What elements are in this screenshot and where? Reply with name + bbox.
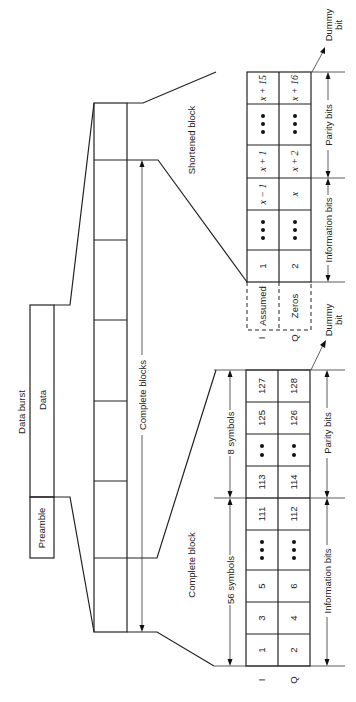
cell-q-112: 112 xyxy=(288,506,299,521)
cell-q-126: 126 xyxy=(288,410,299,426)
cell-q-6: 6 xyxy=(288,583,299,588)
cell-q-2: 2 xyxy=(288,647,299,652)
cell-i-x-minus-1: x − 1 xyxy=(257,183,268,205)
row-label-i: I xyxy=(256,679,267,682)
cell-i-111: 111 xyxy=(256,507,267,521)
dummy-bit-label-mid-2: bit xyxy=(333,315,344,325)
ellipsis-icon xyxy=(293,114,297,134)
parity-symbols-label: 8 symbols xyxy=(225,411,236,454)
cell-q-x-plus-2: x + 2 xyxy=(289,150,300,172)
cell-i-113: 113 xyxy=(256,474,267,489)
data-burst-title: Data burst xyxy=(16,390,27,434)
ellipsis-icon xyxy=(292,540,296,560)
row-label-q: Q xyxy=(288,676,299,683)
complete-blocks-label: Complete blocks xyxy=(137,360,148,430)
cell-i-1: 1 xyxy=(257,263,268,268)
cell-q-x-plus-16: x + 16 xyxy=(289,75,300,102)
complete-block-title: Complete block xyxy=(186,532,197,598)
cell-i-x-plus-1: x + 1 xyxy=(257,150,268,172)
cell-q-128: 128 xyxy=(288,378,299,394)
ellipsis-icon xyxy=(261,114,265,134)
ellipsis-icon xyxy=(292,444,296,457)
cell-i-x-plus-15: x + 15 xyxy=(257,75,268,102)
cell-i-125: 125 xyxy=(256,410,267,426)
data-burst-structure-diagram: Data burst Data Preamble Complete blocks… xyxy=(0,0,356,702)
cell-i-1: 1 xyxy=(256,647,267,652)
cell-i-3: 3 xyxy=(256,615,267,620)
ellipsis-icon xyxy=(293,220,297,240)
info-symbols-label: 56 symbols xyxy=(225,556,236,604)
cell-q-114: 114 xyxy=(288,474,299,489)
dummy-bit-label-top-2: bit xyxy=(333,20,344,30)
complete-parity-bits-label: Parity bits xyxy=(322,412,333,454)
shortened-block: Shortened block Assumed Zeros I Q 1 x − … xyxy=(186,8,345,341)
blocks-column: Complete blocks xyxy=(94,103,149,632)
data-label: Data xyxy=(37,389,48,410)
shortened-block-title: Shortened block xyxy=(186,105,197,174)
assumed-label: Assumed xyxy=(257,286,268,326)
row-label-i: I xyxy=(256,337,267,340)
zeros-label: Zeros xyxy=(289,294,300,319)
shortened-parity-bits-label: Parity bits xyxy=(323,104,334,146)
ellipsis-icon xyxy=(260,444,264,457)
cell-i-5: 5 xyxy=(256,583,267,588)
complete-information-bits-label: Information bits xyxy=(322,548,333,613)
shortened-information-bits-label: Information bits xyxy=(323,197,334,262)
cell-q-2: 2 xyxy=(289,263,300,268)
cell-q-x: x xyxy=(289,191,300,197)
cell-q-4: 4 xyxy=(288,615,299,620)
ellipsis-icon xyxy=(260,540,264,560)
row-label-q: Q xyxy=(289,334,300,341)
preamble-label: Preamble xyxy=(36,508,47,549)
cell-i-127: 127 xyxy=(256,378,267,394)
data-burst: Data burst Data Preamble xyxy=(16,103,94,632)
ellipsis-icon xyxy=(261,220,265,240)
